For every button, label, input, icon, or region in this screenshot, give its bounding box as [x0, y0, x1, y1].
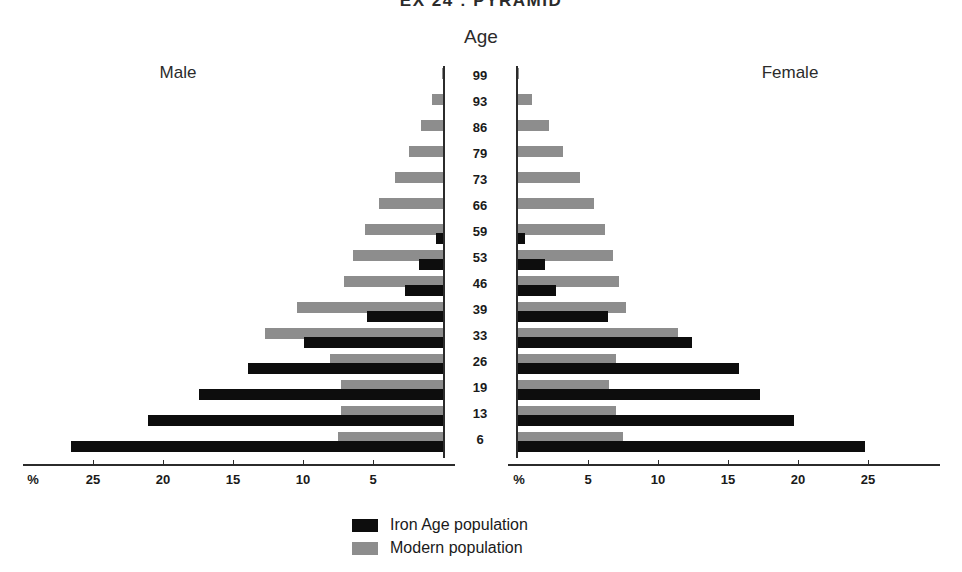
pyramid-row [518, 250, 938, 276]
pyramid-row [23, 198, 443, 224]
bar-iron-female-19 [518, 389, 760, 400]
x-tick-label-female-25: 25 [846, 472, 890, 487]
pyramid-row [518, 354, 938, 380]
bar-modern-female-99 [518, 68, 519, 79]
x-tick-mark [658, 460, 659, 465]
bar-modern-female-79 [518, 146, 563, 157]
pyramid-row [23, 406, 443, 432]
bar-iron-female-26 [518, 363, 739, 374]
bar-modern-female-59 [518, 224, 605, 235]
age-tick-93: 93 [455, 94, 505, 109]
x-axis-female [508, 464, 940, 466]
age-tick-13: 13 [455, 406, 505, 421]
pyramid-row [23, 276, 443, 302]
bar-iron-female-13 [518, 415, 794, 426]
bar-iron-female-33 [518, 337, 692, 348]
x-tick-mark [728, 460, 729, 465]
bar-iron-male-53 [419, 259, 443, 270]
x-tick-label-male-5: 5 [351, 472, 395, 487]
bar-iron-male-46 [405, 285, 443, 296]
bar-modern-male-66 [379, 198, 443, 209]
pyramid-row [518, 276, 938, 302]
pyramid-row [23, 68, 443, 94]
age-tick-66: 66 [455, 198, 505, 213]
x-tick-label-female-20: 20 [776, 472, 820, 487]
age-tick-86: 86 [455, 120, 505, 135]
bar-modern-female-86 [518, 120, 549, 131]
x-tick-label-male-20: 20 [141, 472, 185, 487]
pyramid-row [518, 94, 938, 120]
male-bars-panel [23, 66, 443, 456]
bar-iron-female-39 [518, 311, 608, 322]
center-axis-female [516, 66, 518, 458]
age-tick-53: 53 [455, 250, 505, 265]
bar-iron-male-19 [199, 389, 443, 400]
bar-modern-male-59 [365, 224, 443, 235]
pyramid-row [23, 250, 443, 276]
age-tick-26: 26 [455, 354, 505, 369]
x-tick-mark [233, 460, 234, 465]
bar-iron-female-46 [518, 285, 556, 296]
chart-title: EX 24 : PYRAMID [0, 0, 962, 11]
x-tick-mark [373, 460, 374, 465]
pyramid-row [23, 328, 443, 354]
bar-iron-male-33 [304, 337, 443, 348]
age-tick-33: 33 [455, 328, 505, 343]
x-tick-label-female-5: 5 [566, 472, 610, 487]
pyramid-row [518, 120, 938, 146]
legend-label-modern: Modern population [390, 539, 523, 557]
bar-iron-male-13 [148, 415, 443, 426]
x-tick-mark [868, 460, 869, 465]
pyramid-row [518, 406, 938, 432]
bar-iron-male-59 [436, 233, 443, 244]
x-tick-mark [93, 460, 94, 465]
x-axis-percent-female: % [497, 472, 541, 487]
age-tick-59: 59 [455, 224, 505, 239]
pyramid-row [518, 146, 938, 172]
legend-swatch-iron [352, 519, 378, 532]
bar-iron-female-6 [518, 441, 865, 452]
x-tick-label-female-15: 15 [706, 472, 750, 487]
pyramid-row [518, 198, 938, 224]
x-tick-label-male-15: 15 [211, 472, 255, 487]
pyramid-row [23, 354, 443, 380]
pyramid-row [23, 120, 443, 146]
pyramid-row [23, 146, 443, 172]
pyramid-row [518, 172, 938, 198]
center-axis-male [443, 66, 445, 458]
pyramid-row [23, 94, 443, 120]
x-tick-mark [163, 460, 164, 465]
bar-iron-male-26 [248, 363, 443, 374]
x-tick-label-male-10: 10 [281, 472, 325, 487]
bar-modern-male-93 [432, 94, 443, 105]
pyramid-row [518, 432, 938, 458]
chart-legend: Iron Age populationModern population [352, 516, 692, 562]
bar-modern-female-93 [518, 94, 532, 105]
age-axis-tick-labels: 99938679736659534639332619136 [455, 66, 505, 456]
pyramid-row [518, 68, 938, 94]
pyramid-row [23, 380, 443, 406]
x-tick-mark [798, 460, 799, 465]
pyramid-row [518, 328, 938, 354]
legend-item-iron: Iron Age population [352, 516, 692, 534]
pyramid-row [518, 380, 938, 406]
age-tick-99: 99 [455, 68, 505, 83]
age-tick-79: 79 [455, 146, 505, 161]
bar-iron-female-53 [518, 259, 545, 270]
bar-iron-female-59 [518, 233, 525, 244]
bar-iron-male-6 [71, 441, 443, 452]
x-tick-label-female-10: 10 [636, 472, 680, 487]
pyramid-row [23, 172, 443, 198]
bar-modern-male-79 [409, 146, 443, 157]
age-tick-19: 19 [455, 380, 505, 395]
bar-modern-male-73 [395, 172, 443, 183]
pyramid-row [518, 302, 938, 328]
age-axis-title: Age [0, 26, 962, 48]
bar-modern-female-73 [518, 172, 580, 183]
bar-modern-female-66 [518, 198, 594, 209]
age-tick-39: 39 [455, 302, 505, 317]
pyramid-row [23, 432, 443, 458]
pyramid-row [23, 302, 443, 328]
age-tick-46: 46 [455, 276, 505, 291]
x-tick-mark [588, 460, 589, 465]
